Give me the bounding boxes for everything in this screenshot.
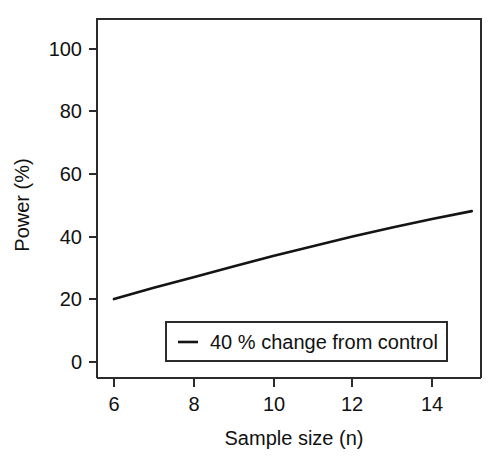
x-tick-label-14: 14	[421, 393, 443, 415]
y-tick-label-20: 20	[60, 288, 82, 310]
x-tick-label-6: 6	[108, 393, 119, 415]
chart-figure: 0 20 40 60 80 100 6 8 10 12 14 Sample si…	[0, 0, 499, 465]
y-axis-title: Power (%)	[11, 158, 33, 251]
x-axis-title: Sample size (n)	[225, 427, 364, 449]
legend: 40 % change from control	[166, 322, 447, 361]
y-tick-label-0: 0	[71, 351, 82, 373]
x-tick-label-8: 8	[188, 393, 199, 415]
y-tick-label-40: 40	[60, 226, 82, 248]
y-tick-label-80: 80	[60, 100, 82, 122]
power-vs-sample-size-line-chart: 0 20 40 60 80 100 6 8 10 12 14 Sample si…	[0, 0, 499, 465]
y-tick-label-100: 100	[49, 38, 82, 60]
legend-entry-label: 40 % change from control	[210, 331, 438, 353]
x-tick-label-12: 12	[341, 393, 363, 415]
x-tick-label-10: 10	[263, 393, 285, 415]
y-tick-label-60: 60	[60, 163, 82, 185]
